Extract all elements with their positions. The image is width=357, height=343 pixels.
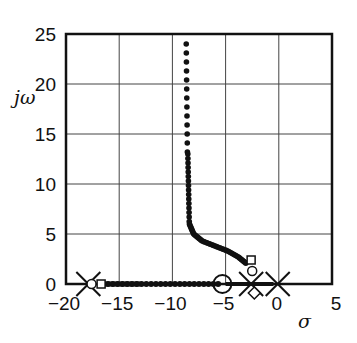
- locus-point: [184, 122, 190, 128]
- locus-point: [184, 113, 190, 119]
- y-axis-label: jω: [10, 86, 35, 108]
- y-tick-label: 25: [35, 24, 56, 45]
- locus-point: [184, 95, 190, 101]
- y-tick-label: 5: [45, 224, 56, 245]
- diamond-marker: [248, 287, 260, 299]
- x-tick-label: −20: [48, 293, 80, 314]
- plot-frame: [66, 34, 332, 284]
- y-tick-label: 20: [35, 74, 56, 95]
- locus-point: [184, 68, 190, 74]
- small-circle-marker: [248, 267, 257, 276]
- root-locus-plot: 0510152025−20−15−10−505 jω σ: [0, 0, 357, 343]
- locus-point: [184, 50, 190, 56]
- x-tick-label: −10: [154, 293, 186, 314]
- locus-point: [215, 281, 221, 287]
- x-tick-label: −5: [213, 293, 235, 314]
- locus-point: [184, 77, 190, 83]
- x-tick-label: 5: [331, 293, 342, 314]
- locus-point: [184, 140, 190, 146]
- x-tick-label: −15: [101, 293, 133, 314]
- locus-point: [184, 59, 190, 65]
- y-tick-label: 15: [35, 124, 56, 145]
- small-circle-marker: [87, 280, 96, 289]
- locus-point: [183, 41, 189, 47]
- locus-point: [184, 86, 190, 92]
- y-tick-label: 10: [35, 174, 56, 195]
- x-tick-label: 0: [272, 293, 283, 314]
- y-tick-label: 0: [45, 274, 56, 295]
- square-marker: [247, 256, 255, 264]
- locus-point: [184, 131, 190, 137]
- square-marker: [97, 280, 105, 288]
- grid: [66, 34, 332, 284]
- x-axis-label: σ: [298, 310, 312, 332]
- locus-points: [100, 41, 273, 287]
- locus-point: [184, 104, 190, 110]
